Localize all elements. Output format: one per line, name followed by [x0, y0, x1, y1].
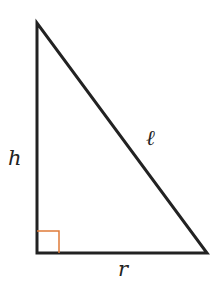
- slant-label: ℓ: [146, 126, 155, 150]
- triangle-diagram: h ℓ r: [0, 0, 216, 288]
- base-label: r: [118, 257, 130, 281]
- right-angle-marker: [37, 231, 59, 253]
- right-triangle: [37, 23, 207, 253]
- height-label: h: [8, 146, 22, 170]
